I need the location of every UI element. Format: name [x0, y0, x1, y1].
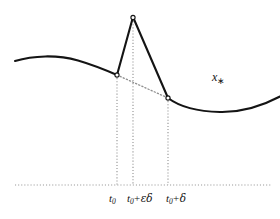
figure-canvas — [0, 0, 280, 219]
spike-peak-marker — [131, 15, 135, 19]
tick-label-t0-eps-delta: t0+εδ — [127, 192, 153, 204]
tick-label-t0-eps-delta-greek: εδ — [141, 192, 153, 204]
tick-label-t0-delta: t0+δ — [166, 192, 186, 204]
spike-falling-edge — [133, 17, 168, 98]
tick-label-t0-delta-greek: δ — [180, 192, 186, 204]
tick-label-t0: t0 — [109, 192, 116, 204]
tick-label-t0-sub: 0 — [112, 197, 116, 206]
junction-t0-marker — [115, 73, 119, 77]
needle-variation-figure: t0 t0+εδ t0+δ x∗ — [0, 0, 280, 219]
junction-t0-plus-delta-marker — [166, 96, 170, 100]
trajectory-after-t0-plus-delta — [168, 97, 280, 113]
curve-label-sub: ∗ — [217, 76, 225, 86]
curve-label-x-star: x∗ — [212, 70, 225, 85]
spike-rising-edge — [117, 17, 133, 75]
tick-label-t0-eps-delta-op: + — [134, 192, 141, 204]
trajectory-before-t0 — [15, 56, 117, 75]
tick-label-t0-delta-op: + — [173, 192, 180, 204]
